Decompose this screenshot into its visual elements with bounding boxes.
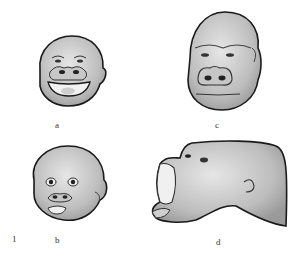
figure-number: 1 [12, 235, 17, 244]
gorilla-face-b-icon [33, 146, 106, 220]
gorilla-face-c-icon [188, 12, 261, 110]
gorilla-head-d-icon [152, 141, 287, 226]
panel-label-b: b [55, 236, 60, 245]
figure-illustration [0, 0, 301, 257]
panel-label-d: d [216, 238, 221, 247]
gorilla-face-a-icon [40, 36, 106, 106]
panel-label-a: a [55, 121, 59, 130]
panel-label-c: c [215, 121, 219, 130]
